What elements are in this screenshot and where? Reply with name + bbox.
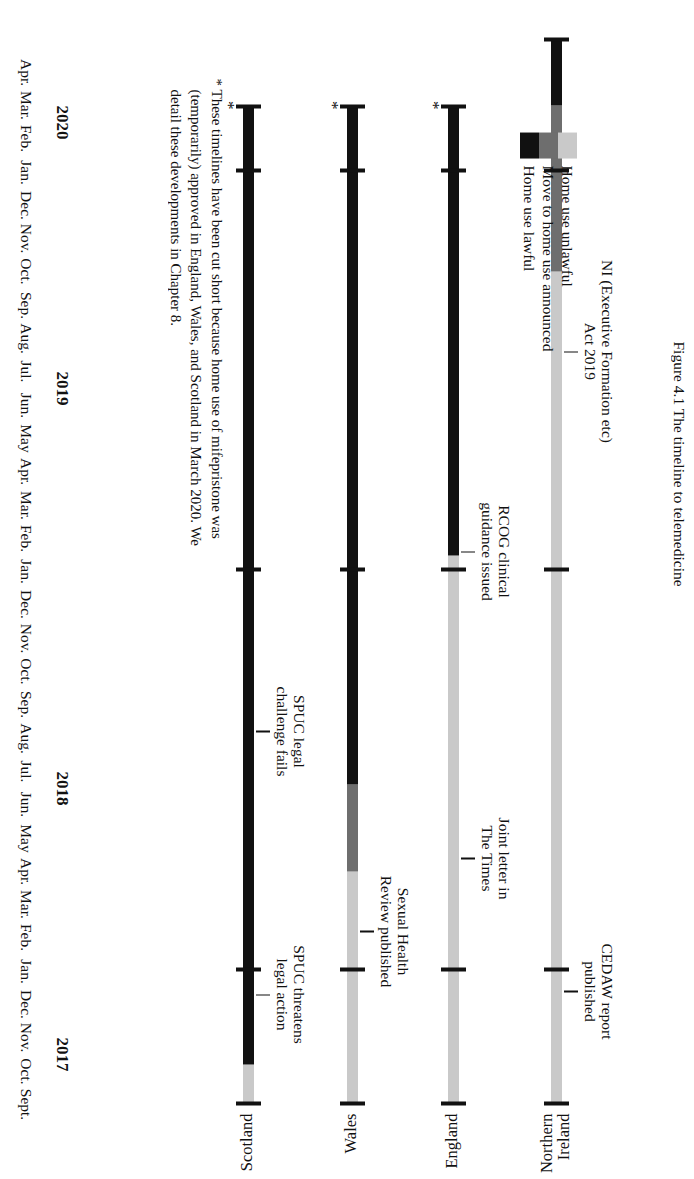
legend-swatch-announced [539, 132, 558, 158]
year-boundary-tick [340, 567, 365, 571]
legend-label: Home use unlawful [560, 165, 576, 286]
event-annotation: NI (Executive Formation etc) Act 2019 [581, 226, 616, 476]
series-label-wales: Wales [342, 1113, 359, 1179]
year-boundary-tick [340, 967, 365, 971]
timeline-segment-unlawful [243, 1064, 254, 1104]
annotation-leader-line [461, 857, 475, 859]
year-axis-label: 2017 [52, 1019, 72, 1089]
event-annotation: SPUC threatens legal action [273, 914, 308, 1074]
event-annotation: Sexual Health Review published [377, 846, 412, 1016]
legend-item: Move to home use announced [539, 132, 558, 351]
timeline-segment-lawful [551, 38, 562, 105]
timeline-segment-unlawful [448, 555, 459, 1104]
year-boundary-tick [441, 567, 466, 571]
track-start-cap [236, 1101, 261, 1105]
track-start-cap [544, 1101, 569, 1105]
year-axis-label: 2018 [52, 753, 72, 823]
figure-footnote: * These timelines have been cut short be… [165, 78, 227, 559]
legend-label: Move to home use announced [541, 165, 557, 351]
timeline-segment-announced [347, 784, 358, 871]
year-boundary-tick [340, 168, 365, 172]
timeline-segment-unlawful [551, 272, 562, 1105]
figure-caption: Figure 4.1 The timeline to telemedicine [670, 341, 688, 586]
asterisk-marker: * [425, 101, 442, 110]
timeline-chart: Sept.Oct.Nov.Dec.Jan.Feb.Mar.Apr.MayJun.… [0, 0, 694, 1179]
event-annotation: CEDAW report published [581, 911, 616, 1071]
track-end-cap [340, 104, 365, 108]
track-start-cap [340, 1101, 365, 1105]
year-boundary-tick [441, 168, 466, 172]
track-end-cap [544, 37, 569, 41]
track-start-cap [441, 1101, 466, 1105]
year-boundary-tick [441, 967, 466, 971]
timeline-segment-lawful [448, 105, 459, 555]
legend-swatch-unlawful [558, 132, 577, 158]
timeline-segment-lawful [243, 105, 254, 1064]
legend-item: Home use unlawful [558, 132, 577, 351]
track-end-cap [236, 104, 261, 108]
timeline-track [448, 105, 459, 1104]
series-label-northern-ireland: Northern Ireland [538, 1113, 573, 1179]
annotation-leader-line [256, 730, 270, 732]
year-axis-label: 2020 [52, 87, 72, 157]
event-annotation: SPUC legal challenge fails [273, 651, 308, 811]
year-boundary-tick [236, 168, 261, 172]
legend-item: Home use lawful [520, 132, 539, 351]
annotation-leader-line [461, 551, 475, 553]
timeline-track [243, 105, 254, 1104]
timeline-segment-unlawful [347, 871, 358, 1104]
annotation-leader-line [360, 930, 374, 932]
legend-label: Home use lawful [522, 165, 538, 271]
series-label-england: England [443, 1113, 460, 1179]
year-boundary-tick [544, 967, 569, 971]
year-boundary-tick [236, 567, 261, 571]
asterisk-marker: * [324, 101, 341, 110]
annotation-leader-line [564, 990, 578, 992]
legend-swatch-lawful [520, 132, 539, 158]
legend: Home use unlawfulMove to home use announ… [520, 132, 577, 351]
figure-rotated-stage: Sept.Oct.Nov.Dec.Jan.Feb.Mar.Apr.MayJun.… [0, 0, 694, 1179]
event-annotation: Joint letter in The Times [478, 778, 513, 938]
month-tick-label: Apr. [18, 42, 34, 102]
track-end-cap [441, 104, 466, 108]
series-label-scotland: Scotland [238, 1113, 255, 1179]
annotation-leader-line [256, 994, 270, 996]
event-annotation: RCOG clinical guidance issued [478, 471, 513, 631]
timeline-segment-lawful [347, 105, 358, 784]
year-axis-label: 2019 [52, 353, 72, 423]
year-boundary-tick [236, 967, 261, 971]
year-boundary-tick [544, 567, 569, 571]
timeline-track [347, 105, 358, 1104]
